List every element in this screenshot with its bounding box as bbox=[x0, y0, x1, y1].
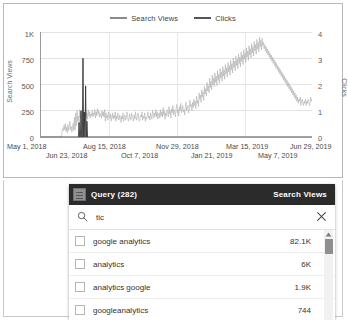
row-checkbox[interactable] bbox=[75, 305, 85, 315]
list-item[interactable]: google analytics 82.1K bbox=[69, 230, 335, 253]
list-item[interactable]: googleanalytics 744 bbox=[69, 299, 335, 320]
y-axis-right-tick-3: 3 bbox=[318, 56, 340, 65]
search-input[interactable] bbox=[96, 213, 316, 222]
row-checkbox[interactable] bbox=[75, 259, 85, 269]
x-axis-tick-aug-15-2018: Aug 15, 2018 bbox=[83, 142, 126, 151]
y-axis-left-tick-1k: 1K bbox=[12, 30, 34, 39]
x-axis-tick-mar-15-2019: Mar 15, 2019 bbox=[226, 142, 268, 151]
filter-icon[interactable] bbox=[73, 188, 86, 201]
scrollbar-thumb[interactable] bbox=[325, 239, 333, 254]
row-value: 82.1K bbox=[290, 237, 311, 246]
x-axis-tick-may-7-2019: May 7, 2019 bbox=[258, 151, 298, 160]
chart-card: Search Views Clicks Search Views Clicks … bbox=[3, 3, 343, 178]
x-axis-tick-jun-23-2018: Jun 23, 2018 bbox=[46, 151, 88, 160]
list-scrollbar[interactable] bbox=[324, 230, 333, 320]
y-axis-left-tick-250: 250 bbox=[12, 108, 34, 117]
caret-up-icon[interactable] bbox=[324, 230, 333, 238]
series-paths bbox=[41, 32, 312, 137]
legend-swatch-search-views bbox=[110, 17, 127, 19]
chart-legend: Search Views Clicks bbox=[4, 10, 342, 26]
legend-label-clicks: Clicks bbox=[215, 14, 236, 23]
row-label: analytics google bbox=[93, 283, 295, 292]
row-checkbox[interactable] bbox=[75, 282, 85, 292]
row-value: 6K bbox=[301, 260, 311, 269]
legend-item-clicks[interactable]: Clicks bbox=[194, 14, 236, 23]
y-axis-right-tick-2: 2 bbox=[318, 82, 340, 91]
y-axis-left-tick-500: 500 bbox=[12, 82, 34, 91]
x-axis-tick-jun-29-2019: Jun 29, 2019 bbox=[290, 142, 332, 151]
y-axis-left-tick-750: 750 bbox=[12, 56, 34, 65]
row-label: googleanalytics bbox=[93, 306, 298, 315]
x-axis-tick-nov-29-2018: Nov 29, 2018 bbox=[156, 142, 199, 151]
query-list[interactable]: google analytics 82.1K analytics 6K anal… bbox=[69, 230, 335, 320]
y-axis-right-title: Clicks bbox=[341, 78, 348, 97]
panel-search-row[interactable] bbox=[69, 205, 335, 230]
panel-metric-header[interactable]: Search Views bbox=[273, 190, 327, 199]
list-item[interactable]: analytics 6K bbox=[69, 253, 335, 276]
y-axis-right-tick-4: 4 bbox=[318, 30, 340, 39]
row-checkbox[interactable] bbox=[75, 236, 85, 246]
search-icon bbox=[77, 208, 88, 226]
legend-label-search-views: Search Views bbox=[131, 14, 178, 23]
close-icon[interactable] bbox=[316, 208, 327, 226]
series-clicks bbox=[41, 58, 312, 137]
row-label: analytics bbox=[93, 260, 301, 269]
legend-item-search-views[interactable]: Search Views bbox=[110, 14, 178, 23]
legend-swatch-clicks bbox=[194, 17, 211, 19]
plot-area: Search Views Clicks 0 250 500 750 1K 0 1… bbox=[4, 26, 344, 156]
plot-canvas bbox=[40, 32, 312, 138]
x-axis-tick-oct-7-2018: Oct 7, 2018 bbox=[121, 151, 158, 160]
row-label: google analytics bbox=[93, 237, 290, 246]
row-value: 1.9K bbox=[295, 283, 311, 292]
list-item[interactable]: analytics google 1.9K bbox=[69, 276, 335, 299]
x-axis-tick-may-1-2018: May 1, 2018 bbox=[7, 142, 47, 151]
panel-title: Query (282) bbox=[91, 190, 137, 199]
y-axis-right-tick-1: 1 bbox=[318, 108, 340, 117]
panel-header: Query (282) Search Views bbox=[69, 184, 335, 205]
query-filter-panel: Query (282) Search Views google analytic… bbox=[69, 184, 335, 320]
row-value: 744 bbox=[298, 306, 311, 315]
x-axis-tick-jan-21-2019: Jan 21, 2019 bbox=[191, 151, 233, 160]
